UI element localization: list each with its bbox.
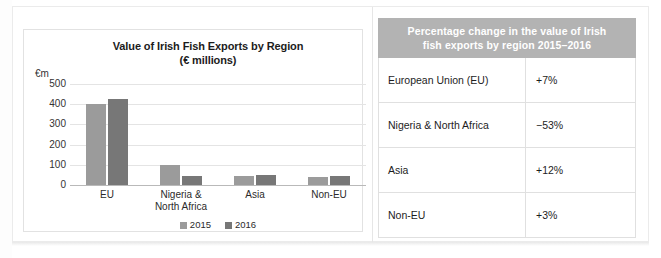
table-row: Asia+12% xyxy=(378,148,636,193)
chart-legend: 20152016 xyxy=(70,219,366,230)
table-body: European Union (EU)+7%Nigeria & North Af… xyxy=(378,58,636,238)
card-bottom-shadow xyxy=(12,242,649,246)
chart-plot-area xyxy=(70,84,366,185)
table-row: Non-EU+3% xyxy=(378,193,636,238)
x-axis-tick-label: Non-EU xyxy=(292,189,366,201)
x-axis-tick-label: Asia xyxy=(218,189,292,201)
table-cell-change: −53% xyxy=(526,103,635,147)
percentage-change-table: Percentage change in the value of Irish … xyxy=(378,18,636,238)
table-header-line2: fish exports by region 2015–2016 xyxy=(378,38,636,52)
bar-2015 xyxy=(160,165,180,185)
y-axis-tick-label: 100 xyxy=(32,159,66,170)
y-axis-tick-label: 400 xyxy=(32,98,66,109)
x-axis-tick-label: Nigeria &North Africa xyxy=(144,189,218,212)
y-axis-tick-label: 0 xyxy=(32,179,66,190)
bar-group xyxy=(144,84,218,185)
table-cell-region: Non-EU xyxy=(379,193,526,237)
chart-title-line1: Value of Irish Fish Exports by Region xyxy=(53,40,363,54)
y-axis-tick-label: 300 xyxy=(32,118,66,129)
x-axis-tick-label-line: Asia xyxy=(218,189,292,201)
y-axis-tick-label: 200 xyxy=(32,139,66,150)
x-axis-tick-label-line: North Africa xyxy=(144,201,218,213)
bar-2016 xyxy=(182,176,202,185)
legend-item-2016: 2016 xyxy=(225,219,256,230)
bar-2015 xyxy=(234,176,254,185)
bar-2015 xyxy=(86,104,106,185)
chart-title-line2: (€ millions) xyxy=(53,54,363,68)
table-cell-change: +7% xyxy=(526,58,635,102)
table-header: Percentage change in the value of Irish … xyxy=(378,18,636,58)
bar-2016 xyxy=(108,99,128,185)
bar-group xyxy=(292,84,366,185)
panel-divider xyxy=(372,7,373,242)
chart-title: Value of Irish Fish Exports by Region (€… xyxy=(53,40,363,67)
page-root: Value of Irish Fish Exports by Region (€… xyxy=(0,0,661,258)
bar-group xyxy=(70,84,144,185)
table-cell-region: European Union (EU) xyxy=(379,58,526,102)
x-axis-tick-label: EU xyxy=(70,189,144,201)
table-cell-change: +12% xyxy=(526,148,635,192)
y-axis-tick-labels: 0100200300400500 xyxy=(31,84,66,185)
x-axis-line xyxy=(70,185,366,186)
legend-label: 2016 xyxy=(235,219,256,230)
legend-label: 2015 xyxy=(190,219,211,230)
legend-swatch-icon xyxy=(180,222,187,229)
legend-item-2015: 2015 xyxy=(180,219,211,230)
bar-2015 xyxy=(308,177,328,185)
legend-swatch-icon xyxy=(225,222,232,229)
bar-2016 xyxy=(330,176,350,185)
bar-2016 xyxy=(256,175,276,185)
table-row: European Union (EU)+7% xyxy=(378,58,636,103)
table-cell-region: Nigeria & North Africa xyxy=(379,103,526,147)
x-axis-tick-label-line: Nigeria & xyxy=(144,189,218,201)
y-axis-tick-label: 500 xyxy=(32,78,66,89)
bar-group xyxy=(218,84,292,185)
chart-panel: Value of Irish Fish Exports by Region (€… xyxy=(13,7,372,241)
table-header-line1: Percentage change in the value of Irish xyxy=(378,24,636,38)
table-row: Nigeria & North Africa−53% xyxy=(378,103,636,148)
table-cell-change: +3% xyxy=(526,193,635,237)
x-axis-tick-label-line: EU xyxy=(70,189,144,201)
x-axis-tick-label-line: Non-EU xyxy=(292,189,366,201)
page-left-margin xyxy=(0,0,12,258)
table-cell-region: Asia xyxy=(379,148,526,192)
